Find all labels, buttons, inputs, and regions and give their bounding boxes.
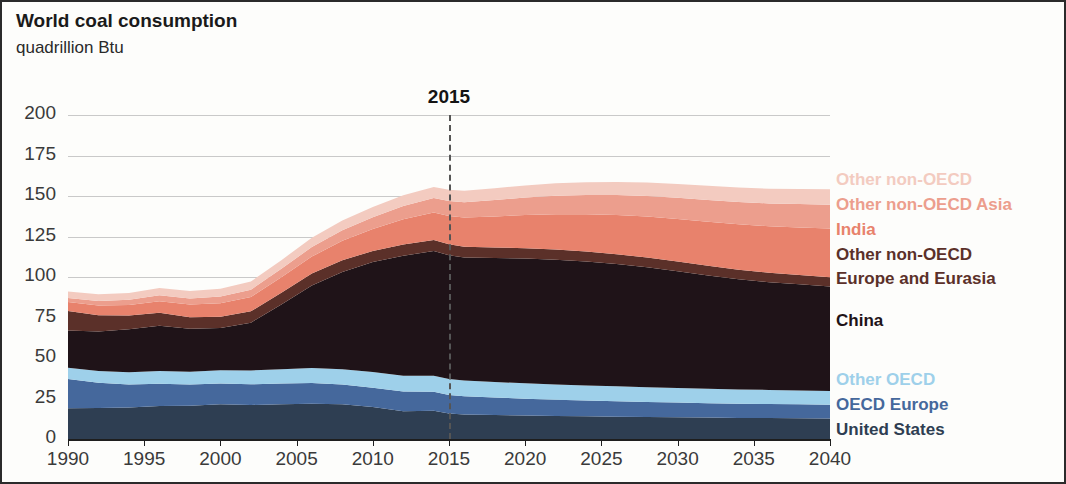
x-axis-tick-label: 1990 <box>38 448 98 470</box>
legend-item-united-states: United States <box>836 420 945 440</box>
x-axis-tick-mark <box>525 439 526 446</box>
x-axis-tick-label: 2020 <box>495 448 555 470</box>
x-axis-tick-mark <box>68 439 69 446</box>
y-axis-tick-label: 0 <box>2 426 56 448</box>
x-axis-tick-mark <box>754 439 755 446</box>
x-axis-tick-label: 1995 <box>114 448 174 470</box>
legend-item-other-non-oecd-asia: Other non-OECD Asia <box>836 195 1012 215</box>
legend-item-other-oecd: Other OECD <box>836 370 935 390</box>
legend-item-china: China <box>836 311 883 331</box>
legend-item-europe-and-eurasia: Europe and Eurasia <box>836 269 996 289</box>
x-axis-tick-label: 2025 <box>571 448 631 470</box>
x-axis-tick-mark <box>601 439 602 446</box>
history-projection-divider <box>449 115 451 439</box>
y-axis-tick-label: 200 <box>2 102 56 124</box>
legend-item-oecd-europe: OECD Europe <box>836 395 948 415</box>
x-axis-tick-mark <box>220 439 221 446</box>
y-axis-tick-label: 100 <box>2 264 56 286</box>
x-axis-tick-mark <box>144 439 145 446</box>
legend-item-other-non-oecd: Other non-OECD <box>836 245 972 265</box>
x-axis-tick-label: 2000 <box>190 448 250 470</box>
legend-item-other-non-oecd: Other non-OECD <box>836 170 972 190</box>
y-axis-tick-label: 150 <box>2 183 56 205</box>
x-axis-tick-label: 2035 <box>724 448 784 470</box>
legend-item-india: India <box>836 220 876 240</box>
y-axis-tick-label: 175 <box>2 143 56 165</box>
y-axis-tick-label: 25 <box>2 386 56 408</box>
x-axis-tick-label: 2040 <box>800 448 860 470</box>
x-axis-tick-mark <box>678 439 679 446</box>
divider-year-label: 2015 <box>409 86 489 108</box>
x-axis-tick-label: 2015 <box>419 448 479 470</box>
x-axis-tick-label: 2010 <box>343 448 403 470</box>
x-axis-tick-mark <box>830 439 831 446</box>
x-axis-tick-label: 2005 <box>267 448 327 470</box>
y-axis-tick-label: 125 <box>2 224 56 246</box>
x-axis-tick-label: 2030 <box>648 448 708 470</box>
y-axis-tick-label: 50 <box>2 345 56 367</box>
x-axis-tick-mark <box>297 439 298 446</box>
y-axis-tick-label: 75 <box>2 305 56 327</box>
chart-subtitle: quadrillion Btu <box>16 38 124 58</box>
x-axis-tick-mark <box>449 439 450 446</box>
chart-title: World coal consumption <box>16 10 237 32</box>
chart-figure: World coal consumption quadrillion Btu 2… <box>0 0 1066 484</box>
x-axis-tick-mark <box>373 439 374 446</box>
